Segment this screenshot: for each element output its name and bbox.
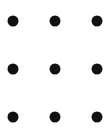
dot-icon: [50, 64, 61, 75]
dot-icon: [8, 64, 19, 75]
dot-icon: [92, 16, 103, 27]
dot-icon: [50, 112, 61, 123]
dot-icon: [8, 112, 19, 123]
dot-icon: [50, 16, 61, 27]
dot-icon: [8, 16, 19, 27]
dot-icon: [92, 64, 103, 75]
dot-icon: [92, 112, 103, 123]
